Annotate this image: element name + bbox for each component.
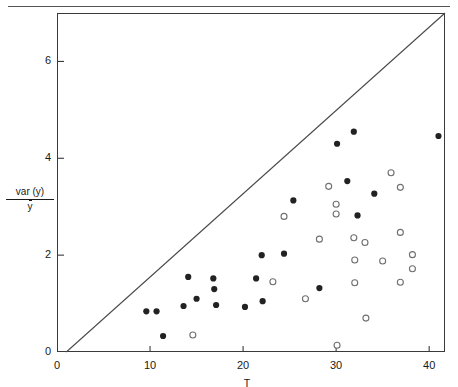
x-tick-label: 40: [417, 360, 441, 371]
y-tick-label: 6: [31, 55, 51, 66]
data-point-filled: [193, 296, 199, 302]
data-point-filled: [160, 333, 166, 339]
data-point-open: [362, 240, 368, 246]
data-point-filled: [259, 252, 265, 258]
data-point-open: [326, 183, 332, 189]
data-point-open: [333, 211, 339, 217]
data-point-filled: [143, 308, 149, 314]
data-point-filled: [213, 302, 219, 308]
data-point-open: [397, 229, 403, 235]
reference-line-group: [66, 13, 445, 352]
data-point-filled: [180, 303, 186, 309]
x-tick-label: 30: [324, 360, 348, 371]
data-point-open: [352, 280, 358, 286]
data-point-open: [333, 201, 339, 207]
data-point-filled: [316, 285, 322, 291]
data-point-filled: [211, 286, 217, 292]
data-point-open: [397, 184, 403, 190]
scatter-plot-canvas: [0, 0, 458, 387]
y-tick-label: 4: [31, 152, 51, 163]
data-point-filled: [260, 298, 266, 304]
data-point-open: [281, 213, 287, 219]
y-axis-title: var (y) y: [6, 186, 54, 213]
x-tick-label: 20: [231, 360, 255, 371]
y-axis-title-denominator: y: [6, 199, 54, 213]
data-point-filled: [354, 212, 360, 218]
data-point-filled: [210, 275, 216, 281]
data-point-open: [363, 315, 369, 321]
data-points-group: [143, 129, 441, 349]
y-axis-title-numerator: var (y): [6, 186, 54, 199]
data-point-filled: [334, 141, 340, 147]
data-point-filled: [344, 178, 350, 184]
data-point-filled: [253, 275, 259, 281]
x-tick-label: 10: [138, 360, 162, 371]
data-point-filled: [281, 251, 287, 257]
data-point-open: [409, 266, 415, 272]
data-point-open: [380, 258, 386, 264]
data-point-filled: [290, 197, 296, 203]
data-point-open: [190, 332, 196, 338]
x-tick-label: 0: [45, 360, 69, 371]
data-point-filled: [371, 191, 377, 197]
data-point-open: [409, 252, 415, 258]
data-point-filled: [242, 304, 248, 310]
data-point-open: [302, 296, 308, 302]
x-axis-title: T: [244, 377, 250, 387]
y-tick-label: 2: [31, 249, 51, 260]
data-point-open: [388, 170, 394, 176]
data-point-open: [334, 342, 340, 348]
data-point-open: [270, 279, 276, 285]
data-point-filled: [185, 274, 191, 280]
data-point-open: [316, 236, 322, 242]
data-point-open: [397, 279, 403, 285]
data-point-open: [352, 257, 358, 263]
y-tick-label: 0: [31, 346, 51, 357]
data-point-filled: [435, 133, 441, 139]
data-point-open: [351, 235, 357, 241]
data-point-filled: [153, 308, 159, 314]
data-point-filled: [351, 129, 357, 135]
diagonal-reference-line: [66, 13, 445, 352]
figure-container: 0246 010203040 T var (y) y: [0, 0, 458, 387]
